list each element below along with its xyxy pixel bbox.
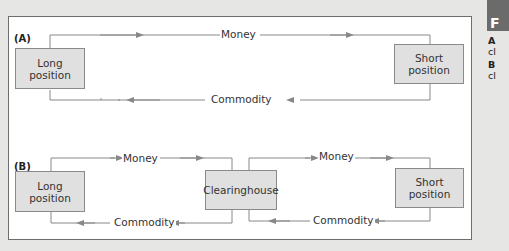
box-line2: position [29, 192, 71, 204]
panel-a-long-position-box: Longposition [15, 48, 85, 89]
panel-b-long-position-box: Longposition [15, 171, 85, 212]
panel-b-money-label-left: Money [122, 152, 159, 164]
panel-a-label: (A) [14, 33, 31, 44]
box-line2: position [409, 188, 451, 200]
sidebar-header: F [487, 0, 509, 31]
box-line2: position [29, 69, 71, 81]
panel-b-commodity-label-right: Commodity [312, 214, 375, 226]
sidebar-item-key: A [488, 35, 495, 46]
clearinghouse-label: Clearinghouse [203, 184, 278, 196]
panel-b-short-position-box: Shortposition [395, 168, 464, 208]
panel-b-money-label-right: Money [318, 150, 355, 162]
sidebar-item-b: B cl [488, 59, 496, 81]
panel-b-commodity-label-left: Commodity [113, 216, 176, 228]
sidebar-item-a: A cl [488, 35, 496, 57]
box-line1: Long [37, 57, 62, 69]
box-line1: Short [415, 176, 443, 188]
sidebar-item-key: B [488, 59, 495, 70]
sidebar-item-text: cl [488, 46, 496, 57]
clearinghouse-box: Clearinghouse [205, 170, 277, 210]
box-line2: position [408, 64, 450, 76]
box-line1: Long [37, 180, 62, 192]
panel-a-short-position-box: Shortposition [394, 44, 464, 84]
box-line1: Short [415, 52, 443, 64]
panel-a-money-label: Money [220, 28, 257, 40]
sidebar-header-letter: F [490, 15, 500, 31]
sidebar-item-text: cl [488, 70, 496, 81]
panel-a-commodity-label: Commodity [210, 93, 273, 105]
